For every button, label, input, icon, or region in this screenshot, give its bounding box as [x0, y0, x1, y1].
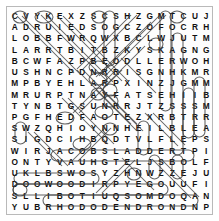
grid-cell[interactable]: N [144, 78, 155, 89]
grid-cell[interactable]: C [99, 11, 110, 22]
grid-cell[interactable]: E [155, 56, 166, 67]
grid-cell[interactable]: L [9, 33, 20, 44]
grid-cell[interactable]: Z [77, 11, 88, 22]
grid-cell[interactable]: D [65, 112, 76, 123]
grid-cell[interactable]: I [65, 123, 76, 134]
grid-cell[interactable]: X [110, 33, 121, 44]
grid-cell[interactable]: F [201, 157, 212, 168]
grid-cell[interactable]: A [88, 112, 99, 123]
grid-cell[interactable]: F [155, 22, 166, 33]
grid-cell[interactable]: H [167, 90, 178, 101]
grid-cell[interactable]: R [110, 67, 121, 78]
grid-cell[interactable]: A [189, 191, 200, 202]
grid-cell[interactable]: Y [99, 168, 110, 179]
grid-cell[interactable]: D [178, 202, 189, 213]
grid-cell[interactable]: D [122, 56, 133, 67]
grid-cell[interactable]: C [20, 56, 31, 67]
grid-cell[interactable]: P [110, 179, 121, 190]
grid-cell[interactable]: B [54, 191, 65, 202]
grid-cell[interactable]: H [201, 56, 212, 67]
grid-cell[interactable]: Y [43, 157, 54, 168]
grid-cell[interactable]: A [20, 45, 31, 56]
grid-cell[interactable]: L [133, 157, 144, 168]
grid-cell[interactable]: E [189, 123, 200, 134]
grid-cell[interactable]: T [88, 45, 99, 56]
grid-cell[interactable]: E [155, 146, 166, 157]
grid-cell[interactable]: R [201, 67, 212, 78]
grid-cell[interactable]: Y [32, 11, 43, 22]
grid-cell[interactable]: O [133, 191, 144, 202]
grid-cell[interactable]: L [77, 78, 88, 89]
grid-cell[interactable]: L [110, 146, 121, 157]
grid-cell[interactable]: R [43, 90, 54, 101]
grid-cell[interactable]: T [189, 33, 200, 44]
grid-cell[interactable]: D [43, 134, 54, 145]
grid-cell[interactable]: M [189, 78, 200, 89]
grid-cell[interactable]: H [54, 202, 65, 213]
grid-cell[interactable]: B [167, 123, 178, 134]
grid-cell[interactable]: R [32, 146, 43, 157]
grid-cell[interactable]: B [43, 168, 54, 179]
grid-cell[interactable]: B [32, 202, 43, 213]
grid-cell[interactable]: H [65, 78, 76, 89]
grid-cell[interactable]: O [99, 22, 110, 33]
grid-cell[interactable]: R [99, 179, 110, 190]
grid-cell[interactable]: A [88, 78, 99, 89]
grid-cell[interactable]: O [167, 22, 178, 33]
grid-cell[interactable]: H [32, 67, 43, 78]
grid-cell[interactable]: D [110, 134, 121, 145]
grid-cell[interactable]: W [144, 168, 155, 179]
grid-cell[interactable]: S [144, 45, 155, 56]
grid-cell[interactable]: Y [122, 179, 133, 190]
grid-cell[interactable]: L [178, 123, 189, 134]
grid-cell[interactable]: W [32, 56, 43, 67]
grid-cell[interactable]: J [144, 157, 155, 168]
grid-cell[interactable]: R [144, 202, 155, 213]
grid-cell[interactable]: H [167, 67, 178, 78]
grid-cell[interactable]: C [54, 67, 65, 78]
grid-cell[interactable]: R [110, 101, 121, 112]
grid-cell[interactable]: O [77, 168, 88, 179]
grid-cell[interactable]: N [20, 157, 31, 168]
grid-cell[interactable]: O [65, 202, 76, 213]
grid-cell[interactable]: L [144, 33, 155, 44]
grid-cell[interactable]: H [77, 134, 88, 145]
grid-cell[interactable]: N [88, 67, 99, 78]
grid-cell[interactable]: R [99, 67, 110, 78]
grid-cell[interactable]: F [110, 90, 121, 101]
grid-cell[interactable]: H [88, 157, 99, 168]
grid-cell[interactable]: S [144, 90, 155, 101]
grid-cell[interactable]: A [201, 123, 212, 134]
grid-cell[interactable]: R [155, 112, 166, 123]
grid-cell[interactable]: T [122, 134, 133, 145]
grid-cell[interactable]: G [65, 101, 76, 112]
grid-cell[interactable]: U [77, 157, 88, 168]
grid-cell[interactable]: Y [9, 202, 20, 213]
grid-cell[interactable]: R [43, 45, 54, 56]
grid-cell[interactable]: J [167, 78, 178, 89]
grid-cell[interactable]: K [155, 45, 166, 56]
grid-cell[interactable]: T [167, 11, 178, 22]
grid-cell[interactable]: Z [155, 101, 166, 112]
grid-cell[interactable]: L [32, 168, 43, 179]
grid-cell[interactable]: T [54, 45, 65, 56]
grid-cell[interactable]: V [133, 134, 144, 145]
grid-cell[interactable]: P [20, 78, 31, 89]
grid-cell[interactable]: B [43, 33, 54, 44]
grid-cell[interactable]: O [144, 22, 155, 33]
grid-cell[interactable]: O [54, 179, 65, 190]
grid-cell[interactable]: Z [110, 168, 121, 179]
grid-cell[interactable]: G [20, 112, 31, 123]
grid-cell[interactable]: Z [32, 123, 43, 134]
grid-cell[interactable]: L [20, 191, 31, 202]
grid-cell[interactable]: Q [178, 191, 189, 202]
grid-cell[interactable]: I [88, 179, 99, 190]
grid-cell[interactable]: U [32, 90, 43, 101]
grid-cell[interactable]: C [178, 11, 189, 22]
grid-cell[interactable]: J [167, 33, 178, 44]
grid-cell[interactable]: H [201, 22, 212, 33]
grid-cell[interactable]: K [43, 11, 54, 22]
grid-cell[interactable]: S [9, 191, 20, 202]
grid-cell[interactable]: N [99, 123, 110, 134]
grid-cell[interactable]: Q [110, 191, 121, 202]
